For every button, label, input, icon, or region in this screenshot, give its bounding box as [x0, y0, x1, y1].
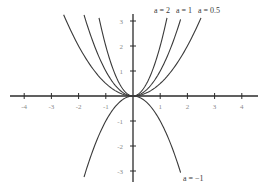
- y-tick-label: 2: [120, 43, 124, 51]
- axes: -4-3-2-11234321-1-2-3: [10, 14, 258, 182]
- x-tick-label: -4: [21, 103, 27, 111]
- x-tick-label: -2: [76, 103, 82, 111]
- curve-label: a = 0.5: [198, 6, 220, 15]
- curve-label: a = 1: [176, 6, 192, 15]
- curve-1: [84, 15, 181, 96]
- y-tick-label: -2: [117, 143, 123, 151]
- y-tick-label: -1: [117, 118, 123, 126]
- x-tick-label: 3: [213, 103, 217, 111]
- x-tick-label: 1: [158, 103, 162, 111]
- curve-neg1: [84, 96, 181, 177]
- y-tick-label: 3: [120, 18, 124, 26]
- curve-label: a = −1: [183, 174, 204, 183]
- x-tick-label: 4: [240, 103, 244, 111]
- parabola-chart: -4-3-2-11234321-1-2-3 a = 2a = 1a = 0.5a…: [0, 0, 262, 187]
- chart-canvas: -4-3-2-11234321-1-2-3 a = 2a = 1a = 0.5a…: [0, 0, 262, 187]
- x-tick-label: 2: [186, 103, 190, 111]
- y-tick-label: -3: [117, 168, 123, 176]
- curve-label: a = 2: [154, 6, 170, 15]
- curve-0_5: [64, 15, 201, 96]
- y-tick-label: 1: [120, 68, 124, 76]
- x-tick-label: -1: [103, 103, 109, 111]
- x-tick-label: -3: [48, 103, 54, 111]
